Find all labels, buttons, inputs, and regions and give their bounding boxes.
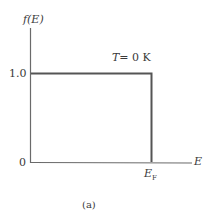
step-curve	[31, 74, 152, 163]
fermi-dirac-plot	[0, 0, 212, 219]
fermi-energy-tick: EF	[144, 168, 157, 179]
x-axis	[30, 163, 192, 164]
y-tick-1: 1.0	[9, 68, 27, 79]
fermi-energy-symbol: E	[144, 167, 152, 180]
y-axis-label: f(E)	[23, 14, 44, 25]
temperature-annotation: T= 0 K	[112, 52, 151, 63]
y-tick-0: 0	[19, 157, 26, 168]
x-axis-label: E	[194, 156, 202, 167]
fermi-energy-subscript: F	[152, 174, 157, 182]
temperature-value: = 0 K	[119, 51, 150, 64]
figure-caption: (a)	[82, 200, 96, 210]
